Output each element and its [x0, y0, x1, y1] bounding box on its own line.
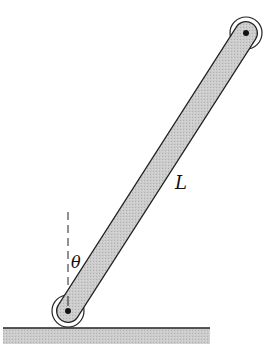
ground-fill: [3, 328, 210, 344]
length-label: L: [174, 172, 187, 193]
ground: [3, 328, 210, 344]
bottom-pivot-pin: [65, 308, 71, 314]
top-pivot-pin: [243, 30, 249, 36]
diagram-canvas: θ L: [0, 0, 270, 344]
angle-label: θ: [71, 253, 81, 272]
rod: [68, 33, 246, 311]
